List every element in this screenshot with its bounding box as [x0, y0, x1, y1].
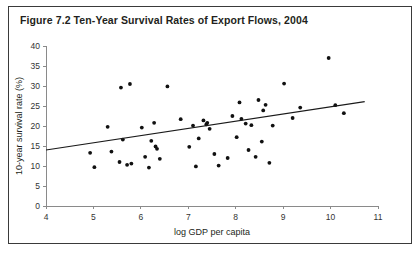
data-point [244, 122, 248, 126]
y-tick-label: 20 [31, 121, 41, 131]
y-tick-label: 15 [31, 141, 41, 151]
y-tick-label: 0 [35, 201, 40, 211]
data-point [143, 155, 147, 159]
y-tick-label: 30 [31, 81, 41, 91]
data-point [128, 82, 132, 86]
data-point [197, 137, 201, 141]
data-point [194, 165, 198, 169]
data-point [212, 152, 216, 156]
data-point [147, 166, 151, 170]
y-axis-title: 10-year survival rate (%) [14, 77, 24, 175]
data-point [166, 85, 170, 89]
data-point [125, 163, 129, 167]
data-point [217, 164, 221, 168]
data-point [342, 111, 346, 115]
data-point [119, 86, 123, 90]
data-point [238, 101, 242, 105]
x-tick-label: 8 [233, 212, 238, 222]
x-tick-label: 10 [326, 212, 336, 222]
data-point [267, 161, 271, 165]
data-point [155, 147, 159, 151]
x-axis-title: log GDP per capita [174, 227, 250, 237]
data-points [88, 56, 346, 169]
y-tick-label: 10 [31, 161, 41, 171]
data-point [205, 121, 209, 125]
data-point [264, 103, 268, 107]
data-point [282, 82, 286, 86]
data-point [261, 109, 265, 113]
data-point [118, 160, 122, 164]
data-point [254, 155, 258, 159]
scatter-chart: 0510152025303540 4567891011 log GDP per … [0, 0, 420, 258]
data-point [247, 148, 251, 152]
data-point [257, 98, 261, 102]
figure-container: Figure 7.2 Ten-Year Survival Rates of Ex… [0, 0, 420, 258]
data-point [92, 165, 96, 169]
x-tick-label: 4 [44, 212, 49, 222]
y-tick-label: 25 [31, 101, 41, 111]
data-point [179, 117, 183, 121]
data-point [158, 157, 162, 161]
data-point [230, 114, 234, 118]
x-tick-label: 5 [91, 212, 96, 222]
data-point [149, 139, 153, 143]
data-point [110, 150, 114, 154]
y-tick-label: 5 [35, 181, 40, 191]
x-tick-label: 9 [281, 212, 286, 222]
y-axis-ticks: 0510152025303540 [31, 41, 46, 211]
data-point [327, 56, 331, 60]
x-tick-label: 11 [374, 212, 383, 222]
y-tick-label: 35 [31, 61, 41, 71]
data-point [202, 119, 206, 123]
data-point [235, 135, 239, 139]
plot-area: 0510152025303540 4567891011 log GDP per … [0, 0, 420, 258]
data-point [260, 140, 264, 144]
x-axis-ticks: 4567891011 [44, 206, 383, 222]
data-point [249, 123, 253, 127]
data-point [106, 125, 110, 129]
data-point [226, 156, 230, 160]
data-point [88, 151, 92, 155]
data-point [140, 126, 144, 130]
data-point [291, 116, 295, 120]
data-point [152, 121, 156, 125]
data-point [208, 127, 212, 131]
data-point [298, 106, 302, 110]
trend-line [46, 102, 365, 150]
data-point [271, 124, 275, 128]
y-tick-label: 40 [31, 41, 41, 51]
x-tick-label: 6 [138, 212, 143, 222]
data-point [187, 145, 191, 149]
x-tick-label: 7 [186, 212, 191, 222]
data-point [129, 162, 133, 166]
